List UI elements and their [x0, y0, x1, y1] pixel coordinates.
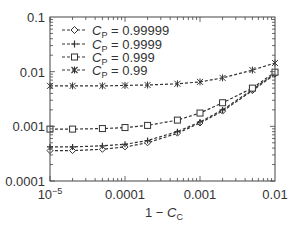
square-marker-icon: [122, 125, 128, 131]
square-marker-icon: [145, 122, 151, 128]
svg-text:CP = 0.99: CP = 0.99: [92, 63, 148, 80]
square-marker-icon: [249, 85, 255, 91]
axis-ticks: [50, 17, 275, 181]
legend: CP = 0.99999 CP = 0.9999 CP = 0.999 CP =…: [62, 23, 169, 80]
x-tick-label: 0.0001: [105, 187, 145, 202]
chart: 0.1 0.01 0.001 0.0001 10−5 0.0001 0.001 …: [0, 0, 298, 227]
y-tick-label: 0.1: [27, 10, 45, 25]
plot-lines: [47, 60, 278, 154]
x-axis-label: 1 − CC: [145, 205, 183, 222]
square-marker-icon: [220, 100, 226, 106]
diamond-marker-icon: [71, 27, 78, 34]
plot-frame: [50, 17, 275, 181]
series: [47, 71, 278, 150]
x-tick-label: 0.001: [184, 187, 217, 202]
series: [47, 71, 278, 153]
square-marker-icon: [72, 54, 78, 60]
series: [47, 69, 278, 132]
y-tick-label: 0.01: [20, 65, 45, 80]
x-tick-label: 0.01: [262, 187, 287, 202]
square-marker-icon: [197, 110, 203, 116]
square-marker-icon: [99, 126, 105, 132]
x-tick-label: 10−5: [38, 186, 63, 202]
square-marker-icon: [174, 117, 180, 123]
square-marker-icon: [70, 126, 76, 132]
plus-marker-icon: [71, 41, 78, 48]
y-tick-label: 0.001: [12, 119, 45, 134]
series: [47, 60, 278, 90]
